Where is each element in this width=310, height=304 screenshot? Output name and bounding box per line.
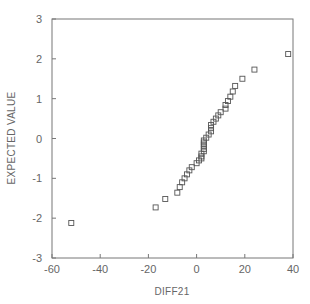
x-tick-label: -40 [92, 263, 108, 275]
x-tick-label: 20 [239, 263, 251, 275]
x-tick-label: 40 [287, 263, 299, 275]
data-points [69, 52, 291, 226]
plot-frame [52, 19, 293, 258]
x-axis-ticks: -60-40-2002040 [44, 254, 299, 275]
y-tick-label: 3 [36, 13, 42, 25]
x-axis-title: DIFF21 [154, 286, 189, 297]
x-tick-label: 0 [194, 263, 200, 275]
x-tick-label: -20 [140, 263, 156, 275]
data-point-marker [209, 126, 214, 131]
y-tick-label: -1 [32, 172, 42, 184]
data-point-marker [69, 220, 74, 225]
data-point-marker [153, 205, 158, 210]
y-tick-label: 2 [36, 53, 42, 65]
data-point-marker [177, 185, 182, 190]
y-tick-label: -2 [32, 212, 42, 224]
y-tick-label: 0 [36, 133, 42, 145]
y-axis-title: EXPECTED VALUE [6, 92, 17, 185]
scatter-chart: -3-2-10123 -60-40-2002040 DIFF21 EXPECTE… [0, 0, 310, 304]
data-point-marker [175, 190, 180, 195]
y-tick-label: 1 [36, 93, 42, 105]
data-point-marker [286, 52, 291, 57]
data-point-marker [163, 197, 168, 202]
data-point-marker [223, 106, 228, 111]
data-point-marker [233, 83, 238, 88]
data-point-marker [252, 67, 257, 72]
y-tick-label: -3 [32, 252, 42, 264]
data-point-marker [240, 76, 245, 81]
data-point-marker [230, 89, 235, 94]
x-tick-label: -60 [44, 263, 60, 275]
